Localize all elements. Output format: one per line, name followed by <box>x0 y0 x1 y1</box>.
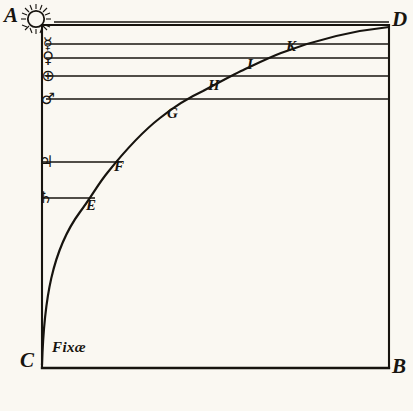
curve-label-G: G <box>167 106 178 121</box>
curve-label-I: I <box>247 57 253 72</box>
curve-label-H: H <box>208 78 220 93</box>
curve-label-E: E <box>86 198 96 213</box>
figure-page: A D C B E F G H I K Fixæ ☿ ♀ ⊕ ♂ ♃ ♄ <box>0 0 413 411</box>
mars-symbol: ♂ <box>37 88 59 110</box>
curve-label-K: K <box>286 39 296 54</box>
planet-horizontal-lines <box>42 22 389 198</box>
saturn-symbol: ♄ <box>35 187 57 209</box>
fixae-label: Fixæ <box>52 340 86 355</box>
earth-symbol: ⊕ <box>37 65 59 87</box>
corner-label-A: A <box>4 5 18 26</box>
jupiter-symbol: ♃ <box>35 151 57 173</box>
corner-label-C: C <box>20 350 34 371</box>
corner-label-D: D <box>392 9 407 30</box>
curve-label-F: F <box>114 159 124 174</box>
corner-label-B: B <box>392 356 406 377</box>
sun-rays-icon <box>21 4 51 34</box>
